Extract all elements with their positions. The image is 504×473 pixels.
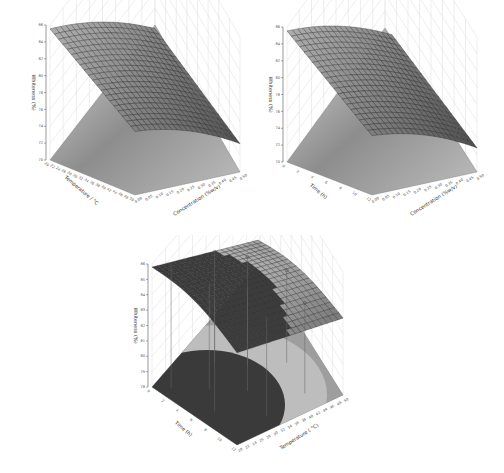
svg-text:0: 0	[146, 389, 151, 394]
surface-plot-time-concentration: 707274767880828486Whiteness (%)024681012…	[255, 0, 504, 230]
svg-text:10: 10	[351, 191, 358, 197]
svg-text:22: 22	[244, 444, 250, 450]
svg-text:70: 70	[38, 158, 43, 162]
svg-text:86: 86	[140, 262, 145, 266]
svg-text:22: 22	[49, 164, 55, 170]
svg-text:0.25: 0.25	[423, 185, 432, 193]
svg-text:86: 86	[38, 23, 43, 27]
svg-text:8: 8	[338, 186, 343, 191]
svg-text:32: 32	[280, 427, 286, 433]
svg-text:72: 72	[275, 143, 280, 147]
svg-text:76: 76	[38, 108, 43, 112]
svg-text:38: 38	[301, 417, 308, 423]
svg-text:0.00: 0.00	[134, 196, 143, 204]
svg-text:34: 34	[287, 423, 294, 429]
svg-text:78: 78	[140, 385, 145, 389]
svg-text:24: 24	[252, 440, 259, 446]
svg-text:36: 36	[89, 180, 96, 186]
z-axis-label: Whiteness (%)	[133, 307, 139, 343]
z-axis-label: Whiteness (%)	[31, 74, 37, 110]
svg-text:38: 38	[95, 182, 102, 188]
svg-text:0.50: 0.50	[476, 173, 485, 181]
svg-text:0.10: 0.10	[392, 191, 401, 199]
surface-plot-temperature-concentration: 707274767880828486Whiteness (%)202224262…	[0, 0, 250, 230]
svg-text:78: 78	[38, 91, 43, 95]
svg-text:0.50: 0.50	[239, 173, 248, 181]
svg-text:0.30: 0.30	[434, 182, 443, 190]
svg-text:86: 86	[275, 25, 280, 29]
svg-text:6: 6	[324, 180, 329, 185]
svg-text:20: 20	[237, 447, 244, 453]
svg-text:0.45: 0.45	[465, 176, 474, 184]
svg-text:12: 12	[231, 446, 237, 452]
svg-text:42: 42	[106, 187, 112, 193]
z-axis-label: Whiteness (%)	[268, 76, 274, 112]
svg-text:83: 83	[140, 308, 145, 312]
svg-text:34: 34	[83, 178, 90, 184]
svg-text:70: 70	[275, 160, 280, 164]
svg-text:0.20: 0.20	[176, 187, 185, 195]
svg-text:0.05: 0.05	[144, 194, 153, 202]
z-axis: 787980818283848586Whiteness (%)	[133, 262, 148, 389]
svg-text:0.00: 0.00	[371, 196, 380, 204]
svg-text:48: 48	[123, 194, 130, 200]
svg-text:40: 40	[308, 413, 315, 419]
svg-text:74: 74	[38, 124, 43, 128]
svg-text:0.15: 0.15	[402, 189, 411, 197]
svg-text:32: 32	[78, 175, 84, 181]
svg-text:26: 26	[61, 168, 68, 174]
svg-text:20: 20	[44, 161, 51, 167]
svg-text:0.40: 0.40	[455, 177, 464, 185]
svg-text:0.25: 0.25	[186, 185, 195, 193]
svg-text:44: 44	[322, 407, 329, 413]
svg-text:48: 48	[336, 400, 343, 406]
svg-text:85: 85	[140, 278, 145, 282]
z-axis: 707274767880828486Whiteness (%)	[268, 25, 283, 164]
svg-text:0.40: 0.40	[218, 177, 227, 185]
svg-text:50: 50	[343, 397, 350, 403]
svg-text:80: 80	[275, 76, 280, 80]
svg-text:0.05: 0.05	[381, 194, 390, 202]
svg-text:80: 80	[38, 74, 43, 78]
svg-text:76: 76	[275, 110, 280, 114]
svg-text:82: 82	[140, 324, 145, 328]
svg-text:36: 36	[294, 420, 301, 426]
svg-text:40: 40	[100, 185, 107, 191]
svg-text:84: 84	[140, 293, 145, 297]
svg-text:0.10: 0.10	[155, 191, 164, 199]
surface-plot-time-temperature: 787980818283848586Whiteness (%)024681012…	[130, 235, 380, 473]
svg-text:80: 80	[140, 354, 145, 358]
svg-text:8: 8	[203, 428, 208, 433]
svg-text:46: 46	[329, 403, 336, 409]
svg-text:78: 78	[275, 93, 280, 97]
svg-text:44: 44	[112, 189, 119, 195]
svg-text:42: 42	[315, 411, 321, 417]
svg-text:82: 82	[275, 59, 280, 63]
svg-text:30: 30	[273, 430, 280, 436]
svg-text:74: 74	[275, 126, 280, 130]
svg-text:0.30: 0.30	[197, 182, 206, 190]
svg-text:2: 2	[161, 399, 165, 404]
svg-text:81: 81	[140, 339, 145, 343]
svg-text:0.20: 0.20	[413, 187, 422, 195]
svg-text:4: 4	[175, 408, 180, 413]
svg-text:26: 26	[259, 437, 266, 443]
svg-text:4: 4	[310, 175, 315, 180]
svg-text:2: 2	[296, 169, 300, 174]
svg-text:79: 79	[140, 370, 145, 374]
svg-text:72: 72	[38, 141, 43, 145]
svg-text:84: 84	[38, 40, 43, 44]
svg-text:82: 82	[38, 57, 43, 61]
svg-text:84: 84	[275, 42, 280, 46]
svg-text:46: 46	[117, 192, 124, 198]
svg-text:0.15: 0.15	[165, 189, 174, 197]
svg-text:0.45: 0.45	[228, 176, 237, 184]
y-axis-label: Temperature ( °C)	[278, 422, 321, 452]
svg-text:0: 0	[281, 164, 286, 169]
svg-text:28: 28	[266, 433, 273, 439]
svg-text:6: 6	[189, 418, 194, 423]
z-axis: 707274767880828486Whiteness (%)	[31, 23, 46, 162]
svg-text:10: 10	[216, 437, 223, 443]
svg-text:24: 24	[55, 166, 62, 172]
